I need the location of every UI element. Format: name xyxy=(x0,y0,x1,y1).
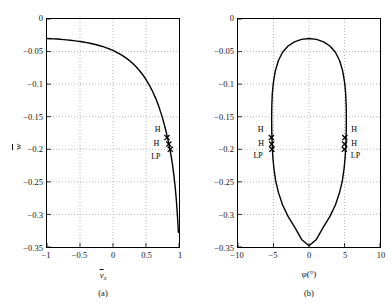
marker-label-h: H xyxy=(258,126,264,134)
marker-label-h: H xyxy=(154,140,160,148)
x-tick-label: 0 xyxy=(111,251,115,260)
x-tick-label: 1 xyxy=(178,251,182,260)
x-tick-label: −5 xyxy=(268,251,277,260)
panel-caption-a: (a) xyxy=(98,288,107,298)
y-tick-label: −0.15 xyxy=(214,113,234,122)
marker-label-lp: LP xyxy=(351,152,360,160)
y-axis-title-a: w xyxy=(14,144,23,151)
x-axis-title-b: φ(°) xyxy=(302,270,317,279)
y-tick-label: −0.2 xyxy=(219,145,234,154)
y-tick-label: −0.2 xyxy=(28,145,43,154)
x-axis-title-a: vx xyxy=(100,271,107,281)
marker-label-h: H xyxy=(351,140,357,148)
y-tick-label: 0 xyxy=(230,14,234,23)
y-tick-label: −0.35 xyxy=(214,244,234,253)
y-tick-label: −0.3 xyxy=(28,211,43,220)
panel-caption-b: (b) xyxy=(304,288,314,298)
y-tick-label: −0.05 xyxy=(214,47,234,56)
marker-label-h: H xyxy=(155,126,161,134)
marker-label-lp: LP xyxy=(253,152,262,160)
y-tick-label: −0.15 xyxy=(23,113,43,122)
panel-b: −10−50510 0−0.05−0.1−0.15−0.2−0.25−0.3−0… xyxy=(195,0,391,304)
marker-label-lp: LP xyxy=(151,153,160,161)
figure-root: −1−0.500.51 0−0.05−0.1−0.15−0.2−0.25−0.3… xyxy=(0,0,391,304)
y-tick-label: −0.25 xyxy=(23,178,43,187)
marker-label-h: H xyxy=(351,126,357,134)
y-tick-label: 0 xyxy=(39,14,43,23)
x-tick-label: 0.5 xyxy=(141,251,152,260)
x-tick-label: 0 xyxy=(307,251,311,260)
x-tick-label: −0.5 xyxy=(72,251,87,260)
marker-label-h: H xyxy=(258,140,264,148)
y-tick-label: −0.1 xyxy=(28,80,43,89)
panel-a: −1−0.500.51 0−0.05−0.1−0.15−0.2−0.25−0.3… xyxy=(0,0,196,304)
y-tick-label: −0.1 xyxy=(219,80,234,89)
x-tick-label: 5 xyxy=(343,251,347,260)
y-tick-label: −0.35 xyxy=(23,244,43,253)
y-tick-label: −0.3 xyxy=(219,211,234,220)
x-tick-label: 10 xyxy=(377,251,386,260)
y-tick-label: −0.25 xyxy=(214,178,234,187)
y-tick-label: −0.05 xyxy=(23,47,43,56)
